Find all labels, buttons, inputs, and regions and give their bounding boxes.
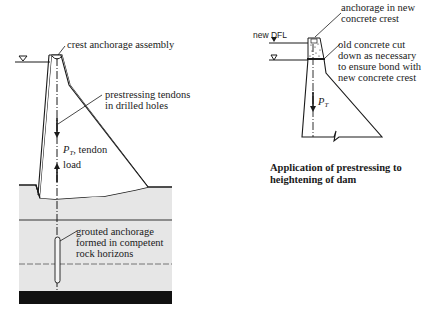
caption-line1: Application of prestressing to <box>270 162 402 174</box>
bedrock-band <box>19 291 172 304</box>
anchor-line1: grouted anchorage <box>76 226 163 237</box>
anchor-line2: formed in competent <box>76 237 163 248</box>
label-tendons-line2: in drilled holes <box>105 100 190 111</box>
label-tendons: prestressing tendons in drilled holes <box>105 89 190 111</box>
old-water-level-icon <box>271 55 277 60</box>
caption-line2: heightening of dam <box>270 174 402 186</box>
water-level-icon <box>19 56 27 61</box>
label-crest-anchorage: crest anchorage assembly <box>67 39 174 50</box>
label-anchorage-new-crest: anchorage in new concrete crest <box>341 2 415 24</box>
load-text2: load <box>63 159 107 170</box>
figure-caption: Application of prestressing to heighteni… <box>270 162 402 186</box>
anchor-line3: rock horizons <box>76 248 163 259</box>
old-line2: down as necessary <box>338 50 421 61</box>
label-pt-right: PT <box>318 96 328 111</box>
anchorage-line2: concrete crest <box>341 13 415 24</box>
load-subscript-right: T <box>324 101 328 109</box>
old-line3: to ensure bond with <box>338 61 421 72</box>
label-old-concrete: old concrete cut down as necessary to en… <box>338 39 421 83</box>
label-tendons-line1: prestressing tendons <box>105 89 190 100</box>
old-line4: new concrete crest <box>338 72 421 83</box>
label-tendon-load: PT, tendon load <box>63 144 107 170</box>
grouted-anchorage <box>55 237 60 283</box>
arrow-down-icon-right <box>310 106 316 112</box>
load-text: , tendon <box>73 144 107 155</box>
anchorage-line1: anchorage in new <box>341 2 415 13</box>
label-new-dfl: new DFL <box>253 30 287 41</box>
old-line1: old concrete cut <box>338 39 421 50</box>
label-grouted-anchorage: grouted anchorage formed in competent ro… <box>76 226 163 259</box>
